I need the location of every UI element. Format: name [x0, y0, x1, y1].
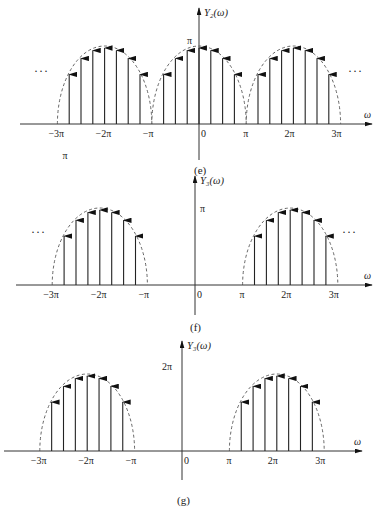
- x-tick-label: 3π: [315, 456, 325, 466]
- y-tick-label: 2π: [162, 362, 172, 372]
- ellipsis-right: ···: [348, 64, 363, 79]
- plot-canvas: [0, 0, 385, 515]
- x-tick-label: 0: [197, 290, 202, 300]
- x-tick-label: −3π: [48, 129, 64, 139]
- ellipsis-right: ···: [342, 225, 357, 240]
- x-tick-label: −3π: [43, 290, 59, 300]
- x-axis-label: ω: [364, 271, 371, 281]
- x-tick-label: −2π: [91, 290, 107, 300]
- x-tick-label: −π: [126, 456, 137, 466]
- x-tick-label: −π: [143, 129, 154, 139]
- x-tick-label: π: [240, 290, 245, 300]
- x-tick-label: −2π: [78, 456, 94, 466]
- x-tick-label: −3π: [31, 456, 47, 466]
- y-axis-label: Y₃(ω): [187, 341, 211, 352]
- y-tick-label: π: [187, 36, 192, 46]
- x-tick-label: 0: [201, 129, 206, 139]
- stray-pi-label: π: [62, 151, 67, 161]
- x-tick-label: −2π: [96, 129, 112, 139]
- x-tick-label: π: [243, 129, 248, 139]
- y-axis-label: Y₃(ω): [200, 176, 224, 187]
- x-tick-label: 2π: [268, 456, 278, 466]
- x-tick-label: −π: [138, 290, 149, 300]
- x-axis-label: ω: [364, 110, 371, 120]
- x-tick-label: π: [226, 456, 231, 466]
- y-axis-label: Y₂(ω): [204, 8, 228, 19]
- panel-caption: (f): [190, 321, 201, 333]
- panel-caption: (g): [177, 494, 190, 506]
- x-tick-label: 2π: [281, 290, 291, 300]
- x-axis-label: ω: [354, 437, 361, 447]
- x-tick-label: 0: [184, 456, 189, 466]
- y-tick-label: π: [200, 204, 205, 214]
- ellipsis-left: ···: [34, 64, 49, 79]
- x-tick-label: 3π: [332, 129, 342, 139]
- x-tick-label: 2π: [284, 129, 294, 139]
- ellipsis-left: ···: [31, 225, 46, 240]
- x-tick-label: 3π: [329, 290, 339, 300]
